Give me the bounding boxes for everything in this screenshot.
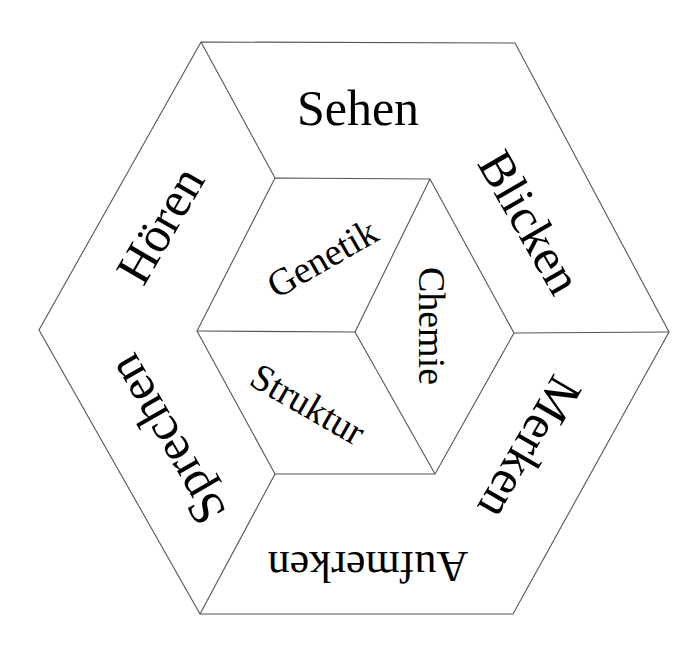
- label-sprechen: Sprechen: [95, 345, 237, 534]
- label-blicken: Blicken: [467, 141, 593, 304]
- label-aufmerken: Aufmerken: [268, 542, 468, 591]
- cube-edge-left: [197, 331, 355, 332]
- connector-top-left: [201, 42, 275, 178]
- label-hoeren: Hören: [105, 157, 216, 293]
- hexagon-cube-diagram: Sehen Blicken Merken Aufmerken Sprechen …: [0, 0, 698, 647]
- label-sehen: Sehen: [297, 80, 419, 136]
- diagram-canvas: Sehen Blicken Merken Aufmerken Sprechen …: [0, 0, 698, 647]
- connector-right: [514, 332, 669, 333]
- label-chemie: Chemie: [411, 267, 453, 385]
- label-merken: Merken: [467, 367, 593, 530]
- label-struktur: Struktur: [244, 355, 373, 454]
- label-genetik: Genetik: [259, 210, 384, 307]
